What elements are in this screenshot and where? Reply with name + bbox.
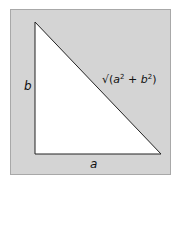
label-b: b [24, 80, 32, 92]
label-hypotenuse: √(a2 + b2) [102, 74, 157, 85]
label-a: a [90, 158, 97, 170]
sqrt-symbol: √ [102, 73, 109, 86]
